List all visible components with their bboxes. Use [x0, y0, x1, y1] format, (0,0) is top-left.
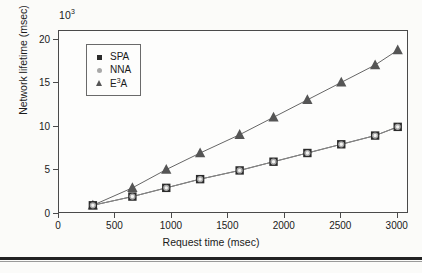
marker-circle	[164, 185, 169, 190]
x-tick-mark	[340, 213, 341, 218]
marker-circle	[373, 133, 378, 138]
marker-circle	[130, 194, 135, 199]
y-axis-multiplier: 103	[59, 8, 75, 21]
legend-item-nna: NNA	[93, 64, 131, 76]
marker-circle	[198, 177, 203, 182]
marker-triangle	[161, 164, 171, 174]
marker-circle	[305, 151, 310, 156]
x-tick-label: 1500	[216, 220, 238, 231]
marker-triangle	[234, 129, 244, 139]
series-line	[93, 127, 398, 205]
marker-triangle	[268, 112, 278, 122]
footer-rule	[0, 257, 422, 260]
legend-marker-triangle-icon	[93, 80, 105, 86]
x-tick-label: 2000	[273, 220, 295, 231]
figure-canvas: 103 Network lifetime (msec) Request time…	[0, 0, 422, 273]
marker-triangle	[370, 59, 380, 69]
y-tick-mark	[53, 39, 58, 40]
y-tick-label: 20	[0, 33, 50, 44]
x-tick-label: 500	[106, 220, 123, 231]
legend-marker-square-icon	[93, 55, 105, 60]
legend-item-e3a: E3A	[93, 77, 131, 89]
marker-triangle	[336, 77, 346, 87]
x-tick-mark	[227, 213, 228, 218]
x-tick-mark	[284, 213, 285, 218]
footer-rule-secondary	[0, 261, 422, 262]
marker-triangle	[195, 147, 205, 157]
marker-circle	[237, 168, 242, 173]
y-multiplier-exponent: 3	[71, 8, 75, 15]
marker-circle	[339, 142, 344, 147]
marker-circle	[90, 203, 95, 208]
marker-triangle	[393, 45, 403, 55]
marker-triangle	[302, 94, 312, 104]
series-line	[93, 127, 398, 205]
y-tick-mark	[53, 82, 58, 83]
y-multiplier-base: 10	[59, 9, 71, 21]
x-tick-mark	[114, 213, 115, 218]
x-tick-label: 0	[55, 220, 61, 231]
legend-label-nna: NNA	[110, 65, 131, 75]
legend-marker-circle-icon	[93, 68, 105, 73]
x-tick-mark	[397, 213, 398, 218]
y-tick-label: 0	[0, 208, 50, 219]
x-tick-label: 2500	[329, 220, 351, 231]
legend-label-e3a-base: E	[110, 79, 117, 90]
marker-circle	[395, 124, 400, 129]
x-tick-mark	[171, 213, 172, 218]
x-axis-title: Request time (msec)	[0, 236, 422, 248]
y-tick-mark	[53, 126, 58, 127]
legend-label-e3a-tail: A	[121, 79, 128, 90]
legend-label-spa: SPA	[110, 52, 129, 62]
legend-item-spa: SPA	[93, 51, 131, 63]
legend-label-e3a: E3A	[110, 76, 127, 89]
y-tick-label: 10	[0, 120, 50, 131]
x-tick-mark	[58, 213, 59, 218]
marker-triangle	[127, 182, 137, 192]
y-tick-mark	[53, 169, 58, 170]
y-tick-label: 5	[0, 164, 50, 175]
chart-legend: SPA NNA E3A	[86, 44, 141, 96]
y-tick-label: 15	[0, 77, 50, 88]
x-tick-label: 1000	[160, 220, 182, 231]
x-tick-label: 3000	[386, 220, 408, 231]
marker-circle	[271, 159, 276, 164]
